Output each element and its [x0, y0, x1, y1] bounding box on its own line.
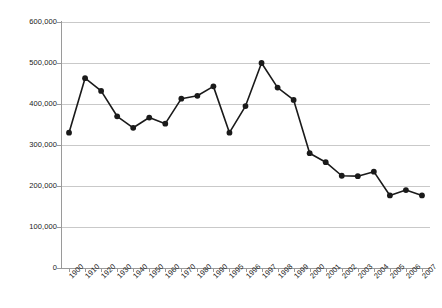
data-point	[275, 85, 281, 91]
data-point	[66, 130, 72, 136]
series-polyline	[69, 63, 422, 195]
y-axis-tick	[57, 227, 61, 228]
data-point	[178, 96, 184, 102]
y-axis-tick	[57, 22, 61, 23]
data-point	[243, 103, 249, 109]
data-point	[419, 193, 425, 199]
data-point	[114, 113, 120, 119]
data-point	[355, 173, 361, 179]
y-axis-tick	[57, 63, 61, 64]
data-point	[307, 150, 313, 156]
y-axis-tick	[57, 186, 61, 187]
data-point	[259, 60, 265, 66]
data-point	[323, 159, 329, 165]
data-point	[130, 125, 136, 131]
data-point	[371, 169, 377, 175]
data-point	[387, 193, 393, 199]
series-markers	[66, 60, 425, 198]
data-point	[146, 115, 152, 121]
line-chart: 0100,000200,000300,000400,000500,000600,…	[0, 0, 442, 308]
data-point	[339, 173, 345, 179]
y-axis-tick	[57, 268, 61, 269]
data-point	[291, 97, 297, 103]
data-point	[227, 130, 233, 136]
data-point	[98, 88, 104, 94]
data-point	[194, 93, 200, 99]
series-line	[0, 0, 442, 308]
y-axis-tick	[57, 104, 61, 105]
data-point	[403, 187, 409, 193]
y-axis-tick	[57, 145, 61, 146]
data-point	[82, 75, 88, 81]
data-point	[162, 121, 168, 127]
data-point	[211, 83, 217, 89]
